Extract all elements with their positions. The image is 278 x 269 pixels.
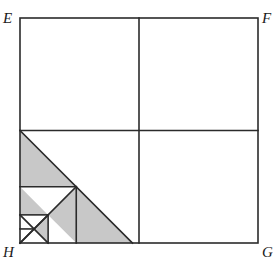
vertex-label-e: E — [3, 11, 12, 26]
vertex-label-g: G — [262, 245, 273, 260]
vertex-label-f: F — [262, 11, 271, 26]
vertex-label-h: H — [3, 245, 14, 260]
geometry-figure: E F G H — [0, 0, 278, 269]
geometry-canvas — [0, 0, 278, 269]
